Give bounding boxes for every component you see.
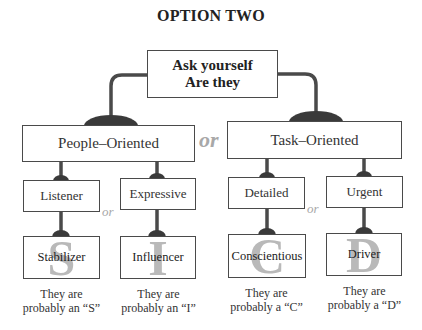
caption-d-line1: They are <box>316 284 413 298</box>
caption-i-line1: They are <box>110 287 207 301</box>
caption-d: They are probably a “D” <box>316 284 413 312</box>
caption-s-line2: probably an “S” <box>13 301 110 315</box>
diagram-title: OPTION TWO <box>0 7 422 25</box>
root-question-line2: Are they <box>185 74 240 91</box>
listener-label: Listener <box>40 188 83 204</box>
caption-i: They are probably an “I” <box>110 287 207 315</box>
people-oriented-label: People–Oriented <box>58 135 159 152</box>
detailed-box: Detailed <box>228 177 305 209</box>
caption-s-line1: They are <box>13 287 110 301</box>
caption-d-line2: probably a “D” <box>316 298 413 312</box>
urgent-label: Urgent <box>347 184 383 200</box>
people-oriented-box: People–Oriented <box>22 125 195 162</box>
expressive-label: Expressive <box>129 186 186 202</box>
caption-c-line1: They are <box>218 286 315 300</box>
influencer-label: Influencer <box>132 250 183 265</box>
or-connector-people: or <box>102 204 114 220</box>
driver-label: Driver <box>348 247 381 262</box>
listener-box: Listener <box>23 180 100 212</box>
root-question-line1: Ask yourself <box>172 57 252 74</box>
task-oriented-box: Task–Oriented <box>227 121 402 159</box>
caption-i-line2: probably an “I” <box>110 301 207 315</box>
caption-c-line2: probably a “C” <box>218 300 315 314</box>
caption-c: They are probably a “C” <box>218 286 315 314</box>
caption-s: They are probably an “S” <box>13 287 110 315</box>
stabilizer-box: S Stabilizer <box>23 236 100 279</box>
detailed-label: Detailed <box>244 185 288 201</box>
root-question-box: Ask yourself Are they <box>147 50 278 98</box>
expressive-box: Expressive <box>120 178 196 210</box>
influencer-box: I Influencer <box>120 236 196 279</box>
driver-box: D Driver <box>326 233 402 276</box>
task-oriented-label: Task–Oriented <box>270 132 358 149</box>
conscientious-label: Conscientious <box>232 249 303 264</box>
or-connector-main: or <box>199 127 219 153</box>
or-connector-task: or <box>307 201 319 217</box>
conscientious-box: C Conscientious <box>228 234 306 278</box>
stabilizer-label: Stabilizer <box>38 250 86 265</box>
urgent-box: Urgent <box>326 176 403 208</box>
